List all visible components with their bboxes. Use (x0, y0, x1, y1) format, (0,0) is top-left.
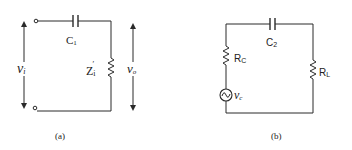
capacitor-c1-icon (73, 15, 78, 27)
circuit-figure: C1 Zi′ vi vo (a) C2 RC vc (0, 0, 352, 150)
label-vo: vo (127, 61, 137, 76)
input-terminal-bottom (33, 106, 37, 110)
caption-b: (b) (271, 131, 282, 141)
resistor-rl-icon (310, 60, 316, 81)
caption-a: (a) (55, 131, 65, 141)
label-zi: Zi′ (86, 60, 96, 78)
capacitor-c2-icon (270, 18, 275, 30)
label-c1: C1 (66, 34, 77, 47)
label-vi: vi (17, 61, 25, 76)
label-c2: C2 (266, 37, 277, 48)
input-terminal-top (34, 19, 38, 23)
resistor-zi-icon (37, 55, 114, 111)
label-rc: RC (234, 53, 246, 64)
wire-top-a (38, 21, 111, 55)
subfigure-a: C1 Zi′ vi vo (a) (17, 15, 137, 141)
label-vc: vc (234, 88, 243, 102)
resistor-rc-icon (223, 46, 229, 89)
ac-source-icon (220, 89, 232, 101)
subfigure-b: C2 RC vc RL (b) (220, 18, 330, 141)
label-rl: RL (319, 67, 330, 78)
